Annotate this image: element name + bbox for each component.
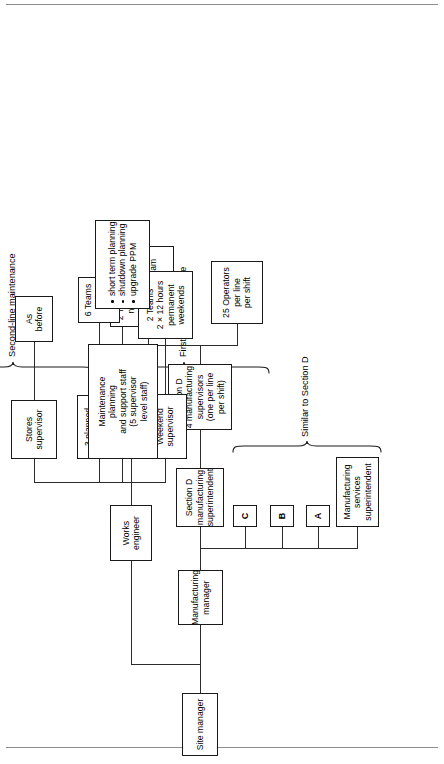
node-stores-supervisor[interactable]: Stores supervisor — [11, 400, 57, 459]
connector-root-spine — [131, 664, 200, 665]
node-stns-line-0: 6 Teams — [83, 284, 93, 317]
connector-root-stub — [200, 665, 201, 693]
node-planning-tasks[interactable]: short term planning shutdown planning up… — [95, 220, 150, 309]
node-section-c-label: C — [240, 513, 251, 520]
connector-mm-to-section-d — [200, 527, 201, 549]
connector-we-to-night-shift — [131, 459, 132, 483]
node-planning-task-1: shutdown planning — [117, 223, 127, 303]
connector-mm-bus — [200, 548, 357, 549]
node-as-before[interactable]: As before — [15, 296, 53, 342]
connector-to-works-engineer — [131, 561, 132, 665]
connector-to-manufacturing-manager — [200, 625, 201, 665]
node-ab-line-1: before — [34, 307, 44, 332]
node-ss-line-1: supervisor — [34, 409, 44, 449]
brace-second-line-maintenance — [0, 361, 94, 374]
node-operators-line-1: per line — [232, 278, 242, 307]
connector-we-to-stores — [34, 459, 35, 483]
connector-we-to-planning — [122, 459, 123, 483]
brace-label-similar-to-section-d: Similar to Section D — [300, 356, 310, 437]
node-mp-line-1: planning — [107, 385, 117, 418]
brace-similar-to-section-d — [232, 440, 382, 453]
node-sds-line-1: manufacturing — [195, 470, 205, 525]
org-chart: Site manager Manufacturing manager Works… — [0, 0, 444, 764]
connector-sectiond-to-supervisors — [200, 430, 201, 468]
connector-mm-to-c — [245, 527, 246, 549]
node-site-manager[interactable]: Site manager — [182, 693, 218, 756]
node-manufacturing-manager[interactable]: Manufacturing manager — [178, 570, 223, 625]
node-section-a-label: A — [313, 513, 324, 520]
node-mp-line-3: (5 supervisor — [128, 376, 138, 426]
node-site-manager-line-0: Site manager — [195, 699, 205, 751]
node-sdsup-line-4: per shift) — [216, 380, 226, 414]
node-works-engineer-line-0: Works — [121, 521, 131, 545]
node-operators-line-0: 25 Operators — [221, 267, 231, 318]
node-planning-task-0: short term planning — [107, 221, 117, 303]
node-works-engineer[interactable]: Works engineer — [110, 505, 152, 561]
node-ws-line-1: supervisor — [165, 406, 175, 446]
node-mss-line-0: Manufacturing — [342, 464, 352, 519]
connector-mm-to-a — [318, 527, 319, 549]
node-mp-line-4: level staff) — [139, 382, 149, 422]
node-sdsup-line-2: supervisors — [195, 375, 205, 420]
node-section-d-superintendent[interactable]: Section D manufacturing superintendent — [176, 468, 224, 527]
connector-we-to-planned-maint — [99, 459, 100, 483]
node-section-b[interactable]: B — [270, 505, 294, 527]
node-sds-line-0: Section D — [184, 479, 194, 517]
node-ttw-line-3: weekends — [176, 285, 186, 324]
node-planning-task-2: upgrade PPM — [128, 243, 138, 303]
node-sds-line-2: superintendent — [205, 469, 215, 527]
node-section-c[interactable]: C — [233, 505, 257, 527]
node-mss-line-1: services — [352, 476, 362, 508]
connector-mm-to-services — [357, 527, 358, 549]
node-manufacturing-manager-line-0: Manufacturing — [190, 570, 200, 625]
node-operators[interactable]: 25 Operators per line per shift — [211, 261, 263, 324]
connector-we-out — [131, 483, 132, 505]
node-maintenance-planning[interactable]: Maintenance planning and support staff (… — [88, 344, 158, 459]
connector-we-to-weekend — [165, 459, 166, 483]
connector-to-operators — [237, 324, 238, 346]
node-section-a[interactable]: A — [306, 505, 330, 527]
node-manufacturing-manager-line-1: manager — [201, 580, 211, 614]
node-section-b-label: B — [277, 513, 288, 520]
node-ss-line-0: Stores — [24, 417, 34, 442]
connector-supervisors-bus — [148, 345, 237, 346]
node-ab-line-0: As — [24, 314, 34, 324]
node-manufacturing-services-superintendent[interactable]: Manufacturing services superintendent — [336, 457, 379, 527]
node-works-engineer-line-1: engineer — [131, 516, 141, 550]
node-ttw-line-2: permanent — [166, 284, 176, 326]
node-sdsup-line-3: (one per line — [205, 373, 215, 421]
node-mp-line-0: Maintenance — [97, 377, 107, 427]
connector-mm-out — [200, 549, 201, 570]
node-ttw-line-1: 2 × 12 hours — [155, 281, 165, 330]
node-mss-line-2: superintendent — [363, 463, 373, 521]
node-mp-line-2: and support staff — [118, 369, 128, 434]
node-operators-line-2: per shift — [242, 277, 252, 308]
connector-mm-to-b — [282, 527, 283, 549]
